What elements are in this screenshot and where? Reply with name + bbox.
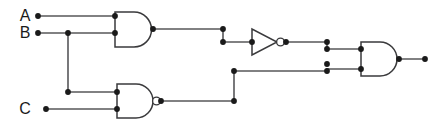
gate-not1[interactable] [252,29,284,55]
input-dot-not1 [249,39,255,45]
junction-dot-nand1-corner-top [231,68,237,74]
output-dot-and2 [396,56,402,62]
junction-dot-and1-corner-top [220,26,226,32]
not-gate-body [252,29,277,55]
output-dot-nand1 [158,98,164,104]
junction-dot-nand1-corner-bottom [231,98,237,104]
junction-dot-and2-feed-lower-b [324,68,330,74]
input-label-a: A [20,7,31,24]
input-label-b: B [20,24,31,41]
input-dot-nand1-in2 [114,106,120,112]
nand-gate-body [117,84,153,118]
junction-dot-b-branch-corner [65,89,71,95]
wire-and1-to-not1 [153,29,252,42]
junction-dot-and1-corner-bottom [220,39,226,45]
terminal-dot-output [422,56,428,62]
output-dot-not1 [283,39,289,45]
input-dot-and2-in2 [358,66,364,72]
junction-dot-and2-feed-upper-a [324,39,330,45]
gate-nand1[interactable] [117,84,160,118]
input-label-c: C [19,100,31,117]
wire-b-branch-down [68,33,117,92]
terminal-dot-a [35,13,41,19]
junction-dot-b-branch [65,30,71,36]
gate-and2[interactable] [361,42,397,76]
junction-dot-and2-feed-lower-a [324,61,330,67]
wire-nand1-to-and2 [161,69,361,101]
gate-and1[interactable] [115,12,152,47]
input-dot-nand1-in1 [114,89,120,95]
input-dot-and1-in1 [112,13,118,19]
input-dot-and1-in2 [112,30,118,36]
logic-circuit-diagram: A B C [0,0,444,126]
junction-dot-and2-feed-upper-b [324,46,330,52]
wire-not1-to-and2 [286,42,361,49]
and-gate-body-final [361,42,397,76]
input-dot-and2-in1 [358,46,364,52]
terminal-dot-b [35,30,41,36]
output-dot-and1 [150,26,156,32]
and-gate-body [115,12,152,47]
terminal-dot-c [43,106,49,112]
input-label-layer: A B C [19,7,31,117]
circuit-canvas-svg: A B C [0,0,444,126]
